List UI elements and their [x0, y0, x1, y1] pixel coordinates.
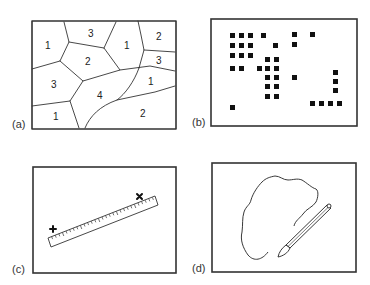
panel-b-raster-grid — [211, 19, 357, 126]
region-number: 2 — [156, 31, 162, 42]
region-number: 1 — [148, 76, 154, 87]
traced-outline — [241, 176, 318, 259]
figure-canvas: 1 3 1 2 2 3 3 1 4 1 2 — [0, 0, 370, 285]
region-number: 4 — [97, 90, 103, 101]
point-marker-icon — [137, 194, 142, 199]
point-marker-icon — [50, 226, 56, 232]
region-number: 1 — [45, 40, 51, 51]
panel-c-ruler-measurement — [33, 167, 176, 273]
region-number: 1 — [53, 111, 59, 122]
ruler-icon — [48, 196, 158, 247]
region-number: 3 — [88, 28, 94, 39]
region-number: 2 — [140, 108, 146, 119]
region-number: 1 — [124, 40, 130, 51]
region-number: 3 — [51, 79, 57, 90]
panel-d-digitizing-pen — [212, 163, 356, 272]
region-number: 2 — [85, 56, 91, 67]
raster-cells — [230, 32, 342, 110]
region-number: 3 — [156, 55, 162, 66]
